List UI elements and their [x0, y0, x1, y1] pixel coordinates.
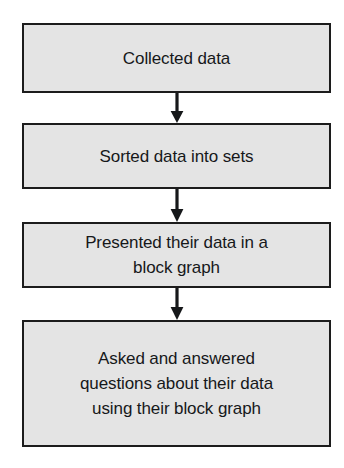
flowchart-node-asked-and-answered-questions: Asked and answered questions about their…	[22, 320, 331, 447]
arrow-down-icon	[168, 93, 186, 123]
flowchart-node-label: Sorted data into sets	[94, 144, 260, 169]
arrow-down-icon	[168, 189, 186, 222]
flowchart-node-label: Asked and answered questions about their…	[74, 346, 279, 421]
flowchart-node-label: Collected data	[117, 46, 236, 71]
arrow-down-icon	[168, 288, 186, 320]
flowchart-diagram: Collected data Sorted data into sets Pre…	[0, 0, 344, 468]
flowchart-node-sorted-data-into-sets: Sorted data into sets	[22, 123, 331, 189]
flowchart-node-presented-their-data: Presented their data in a block graph	[22, 222, 331, 288]
flowchart-node-collected-data: Collected data	[22, 23, 331, 93]
flowchart-node-label: Presented their data in a block graph	[79, 230, 274, 280]
